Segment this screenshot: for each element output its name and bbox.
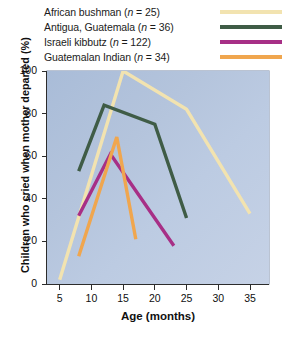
x-axis-tick xyxy=(186,285,187,290)
y-axis-title: Children who cried when mother departed … xyxy=(19,59,31,273)
x-axis-tick xyxy=(250,285,251,290)
x-axis-tick-label: 20 xyxy=(142,292,168,304)
y-axis-tick xyxy=(42,284,47,285)
y-axis-tick xyxy=(42,198,47,199)
legend-color-swatch xyxy=(220,55,282,59)
y-axis-tick-label: 0 xyxy=(3,277,37,289)
x-axis-tick-label: 25 xyxy=(174,292,200,304)
plot-area xyxy=(47,71,269,284)
legend-color-swatch xyxy=(220,25,282,29)
y-axis-line xyxy=(46,71,47,285)
legend-color-swatch xyxy=(220,10,282,14)
legend-item-label: Antigua, Guatemala (n = 36) xyxy=(44,21,174,33)
legend-item: African bushman (n = 25) xyxy=(44,5,282,19)
chart-legend: African bushman (n = 25)Antigua, Guatema… xyxy=(44,5,282,65)
series-line xyxy=(60,71,250,280)
x-axis-tick xyxy=(59,285,60,290)
y-axis-tick xyxy=(42,113,47,114)
x-axis-tick xyxy=(91,285,92,290)
legend-item: Israeli kibbutz (n = 122) xyxy=(44,35,282,49)
x-axis-tick xyxy=(123,285,124,290)
legend-item: Antigua, Guatemala (n = 36) xyxy=(44,20,282,34)
legend-color-swatch xyxy=(220,40,282,44)
x-axis-line xyxy=(46,284,269,285)
x-axis-tick-label: 15 xyxy=(110,292,136,304)
plot-lines xyxy=(47,71,269,284)
y-axis-tick xyxy=(42,156,47,157)
legend-item: Guatemalan Indian (n = 34) xyxy=(44,50,282,64)
x-axis-tick-label: 10 xyxy=(78,292,104,304)
chart-container: African bushman (n = 25)Antigua, Guatema… xyxy=(0,0,286,355)
legend-item-label: Israeli kibbutz (n = 122) xyxy=(44,36,151,48)
x-axis-tick xyxy=(218,285,219,290)
x-axis-tick-label: 5 xyxy=(47,292,73,304)
legend-item-label: African bushman (n = 25) xyxy=(44,6,160,18)
x-axis-tick xyxy=(154,285,155,290)
legend-item-label: Guatemalan Indian (n = 34) xyxy=(44,51,170,63)
y-axis-tick xyxy=(42,241,47,242)
y-axis-tick xyxy=(42,71,47,72)
x-axis-tick-label: 35 xyxy=(237,292,263,304)
x-axis-tick-label: 30 xyxy=(205,292,231,304)
x-axis-title: Age (months) xyxy=(47,310,269,322)
